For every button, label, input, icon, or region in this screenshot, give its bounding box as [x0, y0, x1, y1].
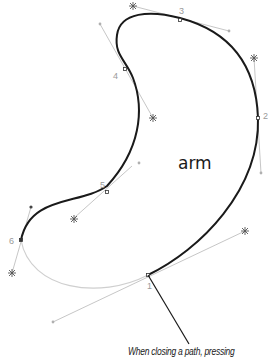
anchor-label-1: 1 — [147, 281, 152, 291]
main-path — [21, 14, 258, 275]
star-icon — [70, 215, 78, 223]
handle-line-4 — [100, 24, 153, 118]
anchor-label-3: 3 — [179, 6, 184, 16]
anchor-label-4: 4 — [113, 71, 118, 81]
anchor-points — [20, 19, 260, 277]
handle-stars — [8, 2, 258, 277]
closing-segment — [21, 240, 148, 288]
star-icon — [8, 269, 16, 277]
anchor-2 — [257, 117, 260, 120]
handle-lines — [12, 6, 261, 322]
star-icon — [250, 54, 258, 62]
caption-text: When closing a path, pressing — [128, 346, 247, 357]
anchor-5 — [106, 191, 109, 194]
anchor-4 — [124, 68, 127, 71]
star-icon — [149, 114, 157, 122]
star-icon — [241, 227, 249, 235]
shape-label: arm — [178, 153, 212, 173]
bezier-path-diagram: 1 2 3 4 5 6 arm — [0, 0, 268, 363]
callout-line — [148, 275, 189, 344]
anchor-6 — [20, 239, 23, 242]
anchor-label-5: 5 — [100, 180, 105, 190]
anchor-label-2: 2 — [263, 111, 268, 121]
anchor-3 — [179, 19, 182, 22]
handle-line-5 — [74, 166, 132, 218]
star-icon — [129, 2, 137, 10]
anchor-label-6: 6 — [9, 236, 14, 246]
